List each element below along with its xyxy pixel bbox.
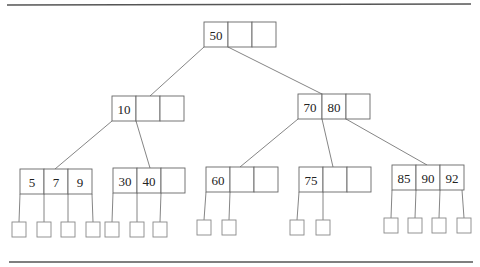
null-child-box (130, 222, 144, 237)
key-cell (136, 96, 160, 121)
null-child-box (12, 222, 26, 237)
key-label: 90 (422, 171, 435, 186)
tree-edge (322, 119, 333, 167)
null-child-box (105, 222, 119, 237)
null-child-box (290, 220, 304, 235)
leaf-pointer (222, 192, 236, 235)
key-label: 10 (118, 102, 131, 117)
key-cell (161, 168, 185, 193)
null-child-box (457, 218, 471, 233)
key-label: 9 (77, 175, 84, 190)
key-label: 75 (305, 173, 318, 188)
pointer-edge (92, 194, 93, 222)
leaf-pointer (408, 190, 422, 233)
pointer-edge (19, 194, 20, 222)
btree-node-l3040: 3040 (113, 168, 185, 193)
null-child-box (432, 218, 446, 233)
tree-nodes: 5010708057930406075859092 (20, 22, 464, 194)
leaf-pointer (153, 193, 167, 237)
leaf-pointer (316, 192, 330, 235)
tree-edge (55, 121, 112, 169)
leaf-pointer (457, 190, 471, 233)
leaf-pointer (290, 192, 304, 235)
leaf-pointers (12, 190, 471, 237)
leaf-pointer (105, 193, 119, 237)
key-label: 70 (304, 100, 317, 115)
leaf-pointer (61, 194, 75, 237)
tree-edge (346, 119, 427, 165)
key-cell (160, 96, 184, 121)
btree-diagram: 5010708057930406075859092 (0, 0, 480, 267)
key-label: 50 (210, 28, 223, 43)
null-child-box (61, 222, 75, 237)
btree-node-l579: 579 (20, 169, 92, 194)
key-label: 85 (398, 171, 411, 186)
btree-node-l60: 60 (206, 167, 278, 192)
null-child-box (316, 220, 330, 235)
leaf-pointer (37, 194, 51, 237)
btree-node-n10: 10 (112, 96, 184, 121)
key-label: 30 (119, 174, 132, 189)
btree-node-l75: 75 (299, 167, 371, 192)
tree-edges (55, 47, 427, 169)
pointer-edge (229, 192, 230, 220)
btree-node-n7080: 7080 (298, 94, 370, 119)
top-rule (7, 4, 471, 5)
key-cell (346, 94, 370, 119)
pointer-edge (439, 190, 440, 218)
pointer-edge (204, 192, 206, 220)
pointer-edge (112, 193, 113, 222)
key-label: 60 (212, 173, 225, 188)
pointer-edge (415, 190, 416, 218)
leaf-pointer (432, 190, 446, 233)
tree-edge (136, 121, 150, 168)
key-label: 40 (143, 174, 156, 189)
leaf-pointer (197, 192, 211, 235)
key-label: 7 (53, 175, 60, 190)
btree-node-root: 50 (204, 22, 276, 47)
key-cell (323, 167, 347, 192)
leaf-pointer (384, 190, 398, 233)
null-child-box (86, 222, 100, 237)
null-child-box (153, 222, 167, 237)
key-cell (230, 167, 254, 192)
tree-edge (240, 119, 298, 167)
pointer-edge (297, 192, 299, 220)
key-cell (347, 167, 371, 192)
btree-node-l859092: 859092 (392, 165, 464, 190)
tree-edge (228, 47, 322, 94)
leaf-pointer (86, 194, 100, 237)
key-cell (228, 22, 252, 47)
null-child-box (408, 218, 422, 233)
pointer-edge (391, 190, 392, 218)
leaf-pointer (130, 193, 144, 237)
key-cell (254, 167, 278, 192)
key-cell (252, 22, 276, 47)
null-child-box (384, 218, 398, 233)
pointer-edge (160, 193, 161, 222)
key-label: 92 (446, 171, 459, 186)
null-child-box (222, 220, 236, 235)
null-child-box (37, 222, 51, 237)
tree-edge (150, 47, 204, 96)
pointer-edge (462, 190, 464, 218)
key-label: 5 (29, 175, 36, 190)
key-label: 80 (328, 100, 341, 115)
null-child-box (197, 220, 211, 235)
leaf-pointer (12, 194, 26, 237)
